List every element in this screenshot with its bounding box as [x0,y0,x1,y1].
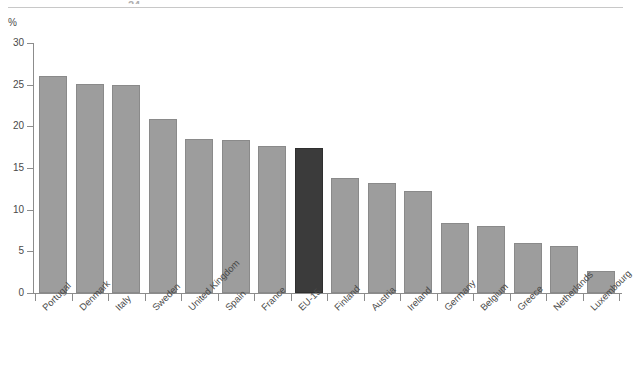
x-axis-tick [473,294,474,301]
cropped-header-text: 24 [128,0,164,4]
y-axis-tick-label: 10 [2,205,24,215]
x-axis-tick [72,294,73,301]
x-axis-tick [510,294,511,301]
y-axis-tick-label: 25 [2,80,24,90]
bar-austria [368,183,396,293]
bar-france [258,146,286,293]
x-axis-tick [108,294,109,301]
x-axis-tick [181,294,182,301]
x-axis-tick [619,294,620,301]
bar-italy [112,85,140,293]
bar-denmark [76,84,104,293]
bar-ireland [404,191,432,294]
y-axis-tick-label: 20 [2,121,24,131]
bar-finland [331,178,359,293]
x-axis-tick [327,294,328,301]
x-axis-tick [400,294,401,301]
x-axis-tick [35,294,36,301]
y-axis-tick-label: 0 [2,288,24,298]
y-axis-unit-label: % [8,17,17,28]
y-axis-tick-label: 5 [2,246,24,256]
y-axis-tick-label: 15 [2,163,24,173]
x-axis-tick [218,294,219,301]
bar-portugal [39,76,67,293]
bar-eu-15 [295,148,323,293]
header-divider [8,7,623,8]
bar-united-kingdom [185,139,213,293]
x-axis-tick [254,294,255,301]
x-axis-tick [546,294,547,301]
x-axis-tick [364,294,365,301]
y-axis-tick [27,293,33,294]
x-axis-tick [291,294,292,301]
x-axis-tick [583,294,584,301]
bar-sweden [149,119,177,293]
x-axis-label-italy: Italy [113,293,133,313]
y-axis-tick-label: 30 [2,38,24,48]
plot-area [33,43,622,293]
x-axis-tick [145,294,146,301]
x-axis-tick [437,294,438,301]
